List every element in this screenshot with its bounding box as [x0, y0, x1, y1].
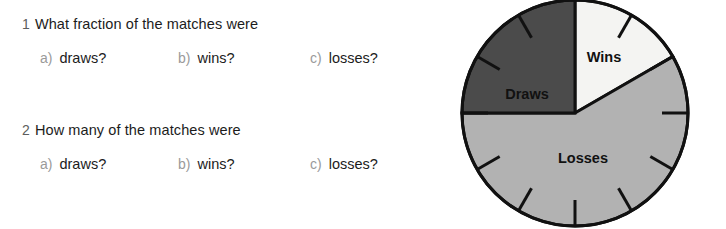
option-2a: a) draws? [40, 155, 106, 173]
question-options-1: a) draws? b) wins? c) losses? [0, 49, 450, 73]
pie-label-wins: Wins [587, 49, 622, 65]
pie-chart-svg: WinsLossesDraws [450, 0, 726, 229]
option-2c-text: losses? [329, 155, 378, 173]
option-2b-text: wins? [197, 155, 234, 173]
question-text-1: What fraction of the matches were [35, 16, 258, 33]
option-1c-letter: c) [310, 49, 322, 67]
option-1a: a) draws? [40, 49, 106, 67]
question-text-2: How many of the matches were [35, 122, 241, 139]
option-1a-text: draws? [59, 49, 106, 67]
question-list: 1 What fraction of the matches were a) d… [0, 0, 450, 229]
option-1b-text: wins? [197, 49, 234, 67]
question-number-1: 1 [22, 16, 30, 33]
option-1b-letter: b) [178, 49, 190, 67]
pie-label-losses: Losses [558, 150, 608, 166]
option-1a-letter: a) [40, 49, 52, 67]
option-2a-text: draws? [59, 155, 106, 173]
option-1b: b) wins? [178, 49, 235, 67]
option-2a-letter: a) [40, 155, 52, 173]
pie-chart: WinsLossesDraws [450, 0, 726, 229]
option-1c: c) losses? [310, 49, 378, 67]
question-number-2: 2 [22, 122, 30, 139]
question-block-2: 2 How many of the matches were a) draws?… [0, 122, 450, 179]
option-1c-text: losses? [329, 49, 378, 67]
question-stem-1: 1 What fraction of the matches were [0, 16, 450, 33]
question-stem-2: 2 How many of the matches were [0, 122, 450, 139]
pie-label-draws: Draws [505, 86, 549, 102]
question-options-2: a) draws? b) wins? c) losses? [0, 155, 450, 179]
option-2c: c) losses? [310, 155, 378, 173]
option-2c-letter: c) [310, 155, 322, 173]
option-2b-letter: b) [178, 155, 190, 173]
worksheet-page: 1 What fraction of the matches were a) d… [0, 0, 726, 229]
option-2b: b) wins? [178, 155, 235, 173]
question-block-1: 1 What fraction of the matches were a) d… [0, 16, 450, 73]
